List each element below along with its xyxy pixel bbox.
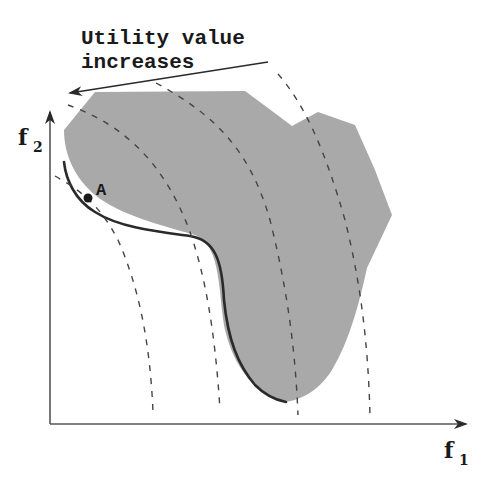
- feasible-region: [64, 91, 392, 402]
- y-axis-label: f: [18, 124, 29, 150]
- utility-diagram: Utility value increases A f 2 f 1: [0, 0, 495, 485]
- x-axis-label: f: [444, 437, 455, 463]
- point-a-marker: [84, 194, 93, 203]
- annotation-line-1: Utility value: [81, 27, 245, 50]
- point-a-label: A: [96, 181, 107, 200]
- y-axis-subscript: 2: [33, 139, 43, 155]
- x-axis-subscript: 1: [459, 452, 469, 468]
- annotation-line-2: increases: [81, 51, 194, 74]
